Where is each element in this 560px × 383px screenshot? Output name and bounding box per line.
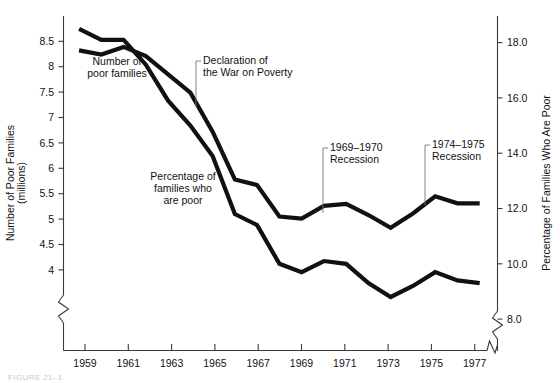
left-tick-label: 7 <box>48 111 54 123</box>
right-tick-label: 10.0 <box>507 258 528 270</box>
x-tick-label: 1969 <box>290 357 314 369</box>
percentage-label-line1: Percentage of <box>150 170 215 182</box>
annotation-poor-families: Number of poor families <box>87 55 147 79</box>
war-on-poverty-label-line2: the War on Poverty <box>203 66 293 78</box>
recession-1969-label-line2: Recession <box>330 153 379 165</box>
recession-1974-leader-line <box>425 145 430 205</box>
right-tick-label: 12.0 <box>507 202 528 214</box>
percentage-label-line3: are poor <box>163 194 203 206</box>
recession-1974-label-line1: 1974–1975 <box>432 138 485 150</box>
chart-svg: 8.5 8 7.5 7 6.5 6 5.5 5 4.5 4 18.0 16.0 … <box>0 0 560 383</box>
left-tick-label: 5.5 <box>39 187 54 199</box>
x-ticks-group: 1959 1961 1963 1965 1967 1969 1971 1973 … <box>73 344 486 369</box>
x-tick-label: 1961 <box>117 357 141 369</box>
recession-1974-label-line2: Recession <box>432 150 481 162</box>
left-tick-label: 4 <box>48 264 54 276</box>
right-axis-title: Percentage of Families Who Are Poor <box>540 95 552 271</box>
x-tick-label: 1977 <box>463 357 487 369</box>
x-tick-label: 1959 <box>73 357 97 369</box>
left-tick-label: 8.5 <box>39 35 54 47</box>
poverty-line-chart: 8.5 8 7.5 7 6.5 6 5.5 5 4.5 4 18.0 16.0 … <box>0 0 560 383</box>
right-tick-label: 14.0 <box>507 147 528 159</box>
left-tick-label: 4.5 <box>39 238 54 250</box>
x-tick-label: 1967 <box>247 357 271 369</box>
left-tick-label: 8 <box>48 60 54 72</box>
poor-families-label-line1: Number of <box>92 55 141 67</box>
left-tick-label: 6.5 <box>39 137 54 149</box>
right-ticks-group: 18.0 16.0 14.0 12.0 10.0 8.0 <box>498 36 528 325</box>
annotation-percentage: Percentage of families who are poor <box>150 170 215 206</box>
figure-caption: FIGURE 21–1 <box>8 373 63 382</box>
x-tick-label: 1965 <box>203 357 227 369</box>
percentage-label-line2: families who <box>154 182 212 194</box>
annotation-recession-1969: 1969–1970 Recession <box>323 141 383 213</box>
x-tick-label: 1971 <box>333 357 357 369</box>
left-tick-label: 5 <box>48 213 54 225</box>
recession-1969-leader-line <box>323 148 328 213</box>
war-on-poverty-label-line1: Declaration of <box>203 54 268 66</box>
right-tick-label: 16.0 <box>507 92 528 104</box>
left-ticks-group: 8.5 8 7.5 7 6.5 6 5.5 5 4.5 4 <box>39 35 63 276</box>
right-tick-label: 18.0 <box>507 36 528 48</box>
poor-families-label-line2: poor families <box>87 67 147 79</box>
right-tick-label: 8.0 <box>507 313 522 325</box>
recession-1969-label-line1: 1969–1970 <box>330 141 383 153</box>
x-tick-label: 1973 <box>376 357 400 369</box>
x-tick-label: 1975 <box>420 357 444 369</box>
x-tick-label: 1963 <box>160 357 184 369</box>
left-tick-label: 6 <box>48 162 54 174</box>
left-axis-title-line2: (millions) <box>15 162 27 204</box>
left-tick-label: 7.5 <box>39 86 54 98</box>
annotation-war-on-poverty: Declaration of the War on Poverty <box>196 54 293 107</box>
right-axis-break-icon <box>493 311 503 339</box>
left-axis-break-icon <box>59 295 69 323</box>
x-axis-break-icon <box>487 341 498 353</box>
